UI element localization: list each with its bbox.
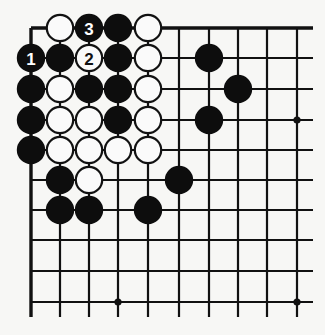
white-stone-icon (105, 137, 131, 163)
star-point-icon (114, 298, 121, 305)
white-stone-icon (135, 107, 161, 133)
black-stone (195, 44, 223, 72)
white-stone-move-2: 2 (76, 45, 102, 71)
stones: 312 (17, 14, 252, 224)
black-stone-move-3: 3 (75, 14, 103, 42)
black-stone-icon (17, 106, 45, 134)
black-stone (104, 106, 132, 134)
white-stone-icon (135, 15, 161, 41)
black-stone-icon (46, 166, 74, 194)
black-stone (165, 166, 193, 194)
white-stone (135, 76, 161, 102)
star-point-icon (293, 116, 300, 123)
black-stone (17, 106, 45, 134)
black-stone-icon (104, 75, 132, 103)
black-stone-move-1: 1 (17, 44, 45, 72)
white-stone (47, 137, 73, 163)
black-stone-icon (75, 196, 103, 224)
black-stone (17, 136, 45, 164)
white-stone-icon (76, 107, 102, 133)
black-stone (104, 75, 132, 103)
white-stone-icon (135, 76, 161, 102)
white-stone-icon (47, 15, 73, 41)
white-stone (47, 76, 73, 102)
black-stone (46, 166, 74, 194)
move-number-label: 1 (26, 50, 35, 69)
black-stone-icon (165, 166, 193, 194)
white-stone-icon (47, 107, 73, 133)
white-stone (135, 137, 161, 163)
move-number-label: 3 (84, 20, 93, 39)
white-stone (47, 107, 73, 133)
go-board-diagram: 312 (0, 0, 325, 335)
black-stone (75, 75, 103, 103)
white-stone (135, 107, 161, 133)
white-stone (76, 107, 102, 133)
black-stone-icon (104, 106, 132, 134)
white-stone (135, 15, 161, 41)
black-stone-icon (17, 75, 45, 103)
white-stone (135, 45, 161, 71)
black-stone-icon (195, 44, 223, 72)
black-stone-icon (17, 136, 45, 164)
black-stone-icon (104, 44, 132, 72)
black-stone (134, 196, 162, 224)
white-stone-icon (135, 137, 161, 163)
black-stone-icon (75, 75, 103, 103)
black-stone (195, 106, 223, 134)
black-stone (46, 44, 74, 72)
black-stone-icon (104, 14, 132, 42)
black-stone-icon (195, 106, 223, 134)
white-stone-icon (76, 167, 102, 193)
white-stone-icon (47, 76, 73, 102)
black-stone (224, 75, 252, 103)
black-stone (104, 44, 132, 72)
black-stone (46, 196, 74, 224)
black-stone-icon (134, 196, 162, 224)
white-stone (76, 167, 102, 193)
white-stone (76, 137, 102, 163)
white-stone (47, 15, 73, 41)
white-stone-icon (76, 137, 102, 163)
white-stone-icon (47, 137, 73, 163)
black-stone-icon (46, 196, 74, 224)
move-number-label: 2 (84, 50, 93, 69)
star-point-icon (293, 298, 300, 305)
white-stone (105, 137, 131, 163)
black-stone-icon (46, 44, 74, 72)
black-stone (17, 75, 45, 103)
white-stone-icon (135, 45, 161, 71)
black-stone (104, 14, 132, 42)
black-stone-icon (224, 75, 252, 103)
black-stone (75, 196, 103, 224)
